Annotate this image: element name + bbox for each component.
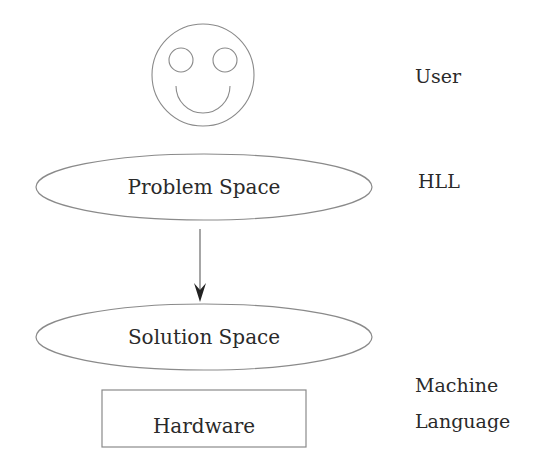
left-eye <box>169 48 193 72</box>
machine-language-label-line2: Language <box>415 410 510 432</box>
problem-space-label: Problem Space <box>128 175 281 199</box>
right-eye <box>213 48 237 72</box>
machine-language-label-line1: Machine <box>415 374 498 396</box>
face-outline <box>152 24 254 126</box>
hardware-label: Hardware <box>153 414 255 438</box>
problem-space-node: Problem Space <box>36 154 372 220</box>
solution-space-label: Solution Space <box>128 325 280 349</box>
user-label: User <box>415 65 462 87</box>
hardware-node: Hardware <box>102 390 306 447</box>
solution-space-node: Solution Space <box>36 304 372 370</box>
smile <box>176 86 230 113</box>
diagram-canvas: Problem Space Solution Space Hardware Us… <box>0 0 545 465</box>
hll-label: HLL <box>418 170 460 192</box>
arrow-problem-to-solution <box>194 229 206 302</box>
smiley-face-icon <box>152 24 254 126</box>
